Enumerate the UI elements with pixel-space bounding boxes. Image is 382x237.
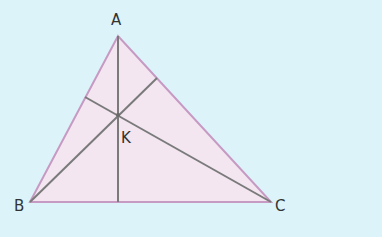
triangle-diagram: A B C K: [0, 0, 382, 237]
label-a: A: [111, 11, 122, 29]
point-k: [116, 113, 120, 117]
label-k: K: [121, 129, 132, 147]
triangle-abc: [30, 36, 271, 202]
label-b: B: [14, 197, 24, 215]
label-c: C: [275, 197, 285, 215]
